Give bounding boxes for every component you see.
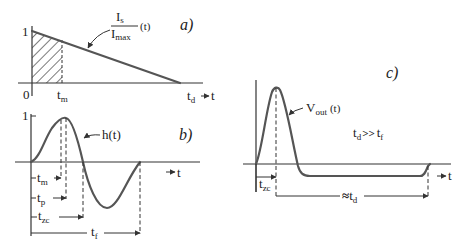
tzc-dimension: tzc <box>31 208 83 225</box>
tzc-dimension: tzc <box>256 164 276 193</box>
h-t-curve <box>31 118 140 208</box>
tf-dimension: tf <box>31 224 140 241</box>
panel-b-label: b) <box>179 126 192 144</box>
origin-label: 0 <box>23 87 30 102</box>
svg-text:≈td: ≈td <box>342 188 358 205</box>
h-curve-pointer <box>84 135 100 138</box>
panel-b: h(t) b) 1 t tm tp tzc tf <box>15 108 200 241</box>
t-axis-label: t <box>448 168 452 183</box>
svg-text:td>>tf: td>>tf <box>353 125 383 142</box>
svg-text:tzc: tzc <box>259 176 271 193</box>
panel-b-y-tick-label: 1 <box>22 108 29 123</box>
h-t-label: h(t) <box>102 127 121 142</box>
tm-dimension: tm <box>31 170 61 187</box>
svg-text:Imax: Imax <box>111 26 131 42</box>
vout-pointer <box>289 108 303 115</box>
tm-label: tm <box>57 87 68 104</box>
td-label: td <box>187 88 196 105</box>
t-axis-label: t <box>211 88 215 103</box>
vout-label: Vout(t) <box>306 100 341 117</box>
panel-a: 1 0 tm td t Is Imax (t) a) <box>18 9 215 105</box>
svg-text:tp: tp <box>37 190 46 207</box>
pulse-shaping-diagram: 1 0 tm td t Is Imax (t) a) h(t) b) 1 t <box>0 0 467 246</box>
td-much-greater-tf: td>>tf <box>353 125 383 142</box>
svg-text:Is: Is <box>116 9 124 25</box>
curve-pointer <box>88 30 110 48</box>
t-axis-label: t <box>177 165 181 180</box>
svg-text:Vout(t): Vout(t) <box>306 100 341 117</box>
td-dimension: ≈td <box>276 188 428 205</box>
y-tick-1: 1 <box>22 24 29 39</box>
svg-text:tf: tf <box>91 224 98 241</box>
svg-text:tzc: tzc <box>38 208 50 225</box>
svg-text:tm: tm <box>37 170 48 187</box>
panel-a-label: a) <box>180 16 193 34</box>
panel-c-label: c) <box>386 64 398 82</box>
is-over-imax-label: Is Imax (t) <box>111 9 151 42</box>
vout-curve <box>256 88 430 176</box>
panel-c: Vout(t) td>>tf c) t tzc ≈td <box>243 64 452 205</box>
svg-text:(t): (t) <box>140 20 151 33</box>
tp-dimension: tp <box>31 190 66 207</box>
